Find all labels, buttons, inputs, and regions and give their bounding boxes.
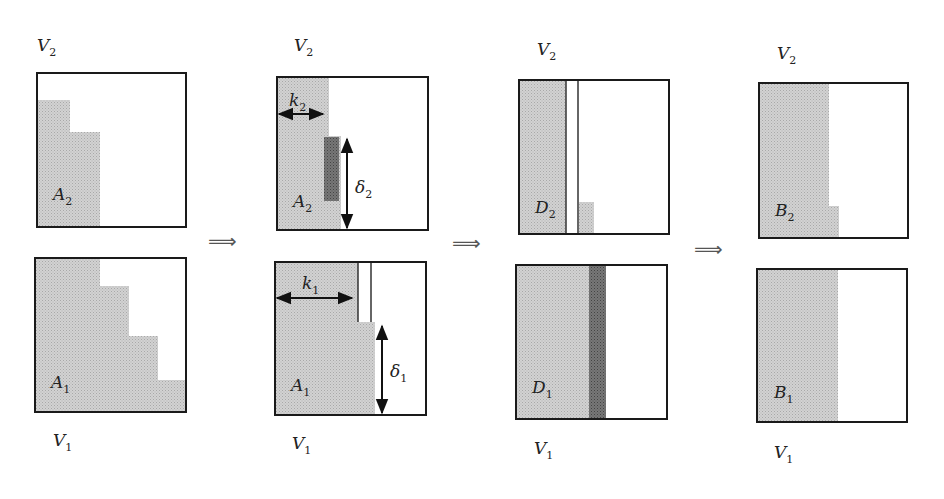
height-label-delta2: δ2	[355, 177, 372, 201]
space-label-v2: V2	[37, 35, 56, 59]
implies-arrow-3: ⟹	[694, 237, 723, 261]
region-a2: k2 δ2 A2	[277, 77, 428, 230]
height-label-delta1: δ1	[390, 361, 407, 385]
moved-block	[324, 137, 339, 201]
panel-2: V2 k2 δ2 A2 k1 δ1 A1 V1	[275, 35, 428, 457]
space-label-v1: V1	[534, 438, 553, 462]
region-b1: B1	[757, 269, 907, 422]
moved-strip	[589, 265, 606, 419]
region-b2: B2	[759, 83, 908, 238]
region-a1: k1 δ1 A1	[275, 262, 426, 415]
panel-1: V2 A2 A1 V1	[35, 35, 186, 454]
space-label-v1: V1	[774, 442, 793, 466]
implies-arrow-1: ⟹	[208, 229, 237, 253]
region-a2: A2	[37, 73, 186, 227]
space-label-v2: V2	[294, 35, 313, 59]
panel-3: V2 D2 D1 V1	[516, 39, 669, 462]
space-label-v2: V2	[537, 39, 556, 63]
region-a1: A1	[35, 258, 186, 412]
space-label-v1: V1	[53, 430, 72, 454]
panel-4: V2 B2 B1 V1	[757, 43, 908, 466]
set-transformation-diagram: V2 A2 A1 V1 ⟹ V2 k2 δ2 A2	[0, 0, 944, 499]
space-label-v1: V1	[292, 433, 311, 457]
space-label-v2: V2	[777, 43, 796, 67]
region-d2: D2	[519, 80, 669, 234]
region-d1: D1	[516, 265, 667, 419]
implies-arrow-2: ⟹	[452, 231, 481, 255]
